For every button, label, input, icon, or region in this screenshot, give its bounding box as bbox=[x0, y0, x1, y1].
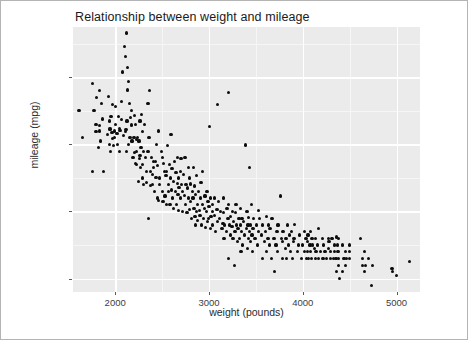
data-point bbox=[157, 199, 160, 202]
data-point bbox=[223, 223, 226, 226]
data-point bbox=[147, 136, 150, 139]
data-point bbox=[125, 119, 128, 122]
data-point bbox=[239, 223, 242, 226]
data-point bbox=[181, 210, 184, 213]
data-point bbox=[309, 230, 312, 233]
data-point bbox=[260, 233, 263, 236]
data-point bbox=[109, 150, 112, 153]
data-point bbox=[139, 146, 142, 149]
data-point bbox=[130, 123, 133, 126]
data-point bbox=[145, 181, 148, 184]
data-point bbox=[98, 89, 101, 92]
data-point bbox=[168, 203, 171, 206]
data-point bbox=[139, 166, 142, 169]
data-point bbox=[211, 223, 214, 226]
data-point bbox=[175, 203, 178, 206]
data-point bbox=[102, 170, 105, 173]
data-point bbox=[251, 250, 254, 253]
data-point bbox=[250, 203, 253, 206]
data-point bbox=[284, 247, 287, 250]
data-point bbox=[258, 217, 261, 220]
data-point bbox=[291, 257, 294, 260]
y-axis-tick-mark bbox=[69, 279, 72, 280]
data-point bbox=[265, 250, 268, 253]
data-point bbox=[202, 217, 205, 220]
data-point bbox=[348, 250, 351, 253]
data-point bbox=[141, 130, 144, 133]
data-point bbox=[158, 183, 161, 186]
data-point bbox=[191, 190, 194, 193]
data-point bbox=[233, 264, 236, 267]
data-point bbox=[205, 210, 208, 213]
data-point bbox=[154, 176, 157, 179]
data-point bbox=[218, 217, 221, 220]
data-point bbox=[364, 264, 367, 267]
data-point bbox=[99, 139, 102, 142]
data-point bbox=[176, 182, 179, 185]
data-point bbox=[222, 196, 225, 199]
data-point bbox=[234, 211, 237, 214]
data-point bbox=[179, 170, 182, 173]
data-point bbox=[288, 233, 291, 236]
data-point bbox=[126, 66, 129, 69]
data-point bbox=[124, 128, 127, 131]
data-point bbox=[281, 240, 284, 243]
gridline-major-horizontal bbox=[73, 279, 420, 280]
gridline-minor-horizontal bbox=[73, 178, 420, 179]
y-axis-tick-mark bbox=[69, 77, 72, 78]
data-point bbox=[193, 215, 196, 218]
data-point bbox=[81, 136, 84, 139]
data-point bbox=[297, 243, 300, 246]
data-point bbox=[125, 150, 128, 153]
data-point bbox=[227, 203, 230, 206]
data-point bbox=[276, 250, 279, 253]
data-point bbox=[266, 237, 269, 240]
data-point bbox=[229, 215, 232, 218]
data-point bbox=[166, 144, 169, 147]
gridline-major-vertical bbox=[115, 27, 116, 292]
data-point bbox=[249, 240, 252, 243]
data-point bbox=[279, 194, 282, 197]
data-point bbox=[361, 257, 364, 260]
data-point bbox=[316, 243, 319, 246]
data-point bbox=[222, 237, 225, 240]
data-point bbox=[222, 211, 225, 214]
data-point bbox=[141, 163, 144, 166]
data-point bbox=[172, 207, 175, 210]
data-point bbox=[120, 118, 123, 121]
data-point bbox=[144, 156, 147, 159]
data-point bbox=[148, 89, 151, 92]
data-point bbox=[188, 176, 191, 179]
data-point bbox=[127, 80, 130, 83]
data-point bbox=[298, 233, 301, 236]
data-point bbox=[147, 217, 150, 220]
data-point bbox=[317, 257, 320, 260]
data-point bbox=[173, 160, 176, 163]
data-point bbox=[200, 223, 203, 226]
gridline-minor-horizontal bbox=[73, 111, 420, 112]
data-point bbox=[161, 156, 164, 159]
data-point bbox=[213, 214, 216, 217]
data-point bbox=[309, 250, 312, 253]
data-point bbox=[274, 243, 277, 246]
data-point bbox=[151, 173, 154, 176]
data-point bbox=[98, 129, 101, 132]
gridline-minor-vertical bbox=[256, 27, 257, 292]
data-point bbox=[217, 200, 220, 203]
data-point bbox=[158, 176, 161, 179]
data-point bbox=[242, 220, 245, 223]
data-point bbox=[225, 207, 228, 210]
data-point bbox=[189, 200, 192, 203]
data-point bbox=[92, 109, 95, 112]
data-point bbox=[261, 223, 264, 226]
data-point bbox=[230, 225, 233, 228]
data-point bbox=[115, 132, 118, 135]
data-point bbox=[337, 264, 340, 267]
data-point bbox=[163, 194, 166, 197]
data-point bbox=[290, 230, 293, 233]
data-point bbox=[363, 250, 366, 253]
gridline-minor-horizontal bbox=[73, 245, 420, 246]
data-point bbox=[323, 250, 326, 253]
data-point bbox=[408, 260, 411, 263]
data-point bbox=[152, 166, 155, 169]
